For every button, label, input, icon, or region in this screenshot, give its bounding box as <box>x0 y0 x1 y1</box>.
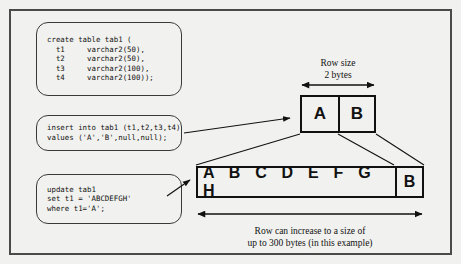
wide-row-cell-main: A B C D E F G H <box>198 168 395 196</box>
diagram-canvas: create table tab1 ( t1 varchar2(50), t2 … <box>0 0 461 264</box>
wide-row-cell-tail-text: B <box>404 173 416 191</box>
insert-statement-box: insert into tab1 (t1,t2,t3,t4) values ('… <box>36 115 182 151</box>
insert-statement-text: insert into tab1 (t1,t2,t3,t4) values ('… <box>37 123 181 142</box>
create-table-statement-text: create table tab1 ( t1 varchar2(50), t2 … <box>37 35 154 83</box>
row-size-label: Row size 2 bytes <box>288 58 388 81</box>
create-table-statement-box: create table tab1 ( t1 varchar2(50), t2 … <box>36 22 182 96</box>
small-row-cell-a: A <box>302 97 338 131</box>
update-statement-text: update tab1 set t1 = 'ABCDEFGH' where t1… <box>37 185 132 214</box>
wide-row-cell-main-text: A B C D E F G H <box>198 164 395 200</box>
update-statement-box: update tab1 set t1 = 'ABCDEFGH' where t1… <box>36 174 182 224</box>
small-row-cell-b: B <box>338 97 374 131</box>
small-row-boxes: A B <box>300 95 376 133</box>
wide-row-boxes: A B C D E F G H B <box>196 166 424 198</box>
row-growth-caption: Row can increase to a size of up to 300 … <box>180 226 440 249</box>
wide-row-cell-tail: B <box>395 168 422 196</box>
